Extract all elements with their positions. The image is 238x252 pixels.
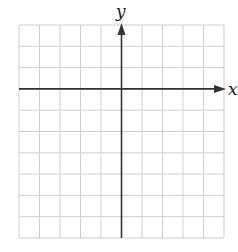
coordinate-plane: x y bbox=[0, 0, 238, 252]
x-axis-label: x bbox=[228, 79, 238, 99]
y-axis-label: y bbox=[115, 1, 126, 21]
